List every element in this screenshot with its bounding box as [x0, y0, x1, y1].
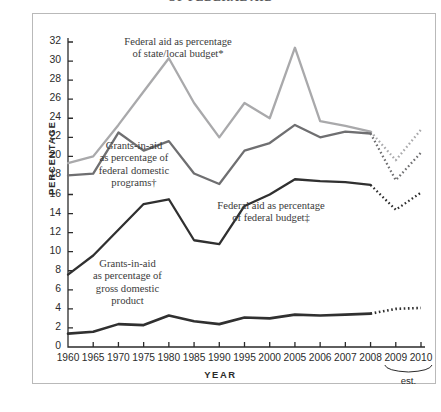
- series-line: [68, 314, 371, 334]
- series-line: [371, 130, 421, 161]
- series-label-gdp: Grants-in-aid as percentage of gross dom…: [70, 258, 185, 308]
- chart-figure: OF FEDERAL AID PERCENTAGE YEAR 024681012…: [0, 0, 441, 412]
- series-line: [371, 308, 421, 314]
- series-label-federal-domestic: Grants-in-aid as percentage of federal d…: [79, 140, 189, 190]
- series-label-federal-budget: Federal aid as percentage of federal bud…: [196, 200, 346, 225]
- est-bracket-path: [385, 365, 432, 372]
- est-annotation: est.: [388, 375, 428, 386]
- est-bracket: [385, 365, 432, 372]
- series-label-state-local: Federal aid as percentage of state/local…: [93, 36, 263, 61]
- series-line: [371, 185, 421, 210]
